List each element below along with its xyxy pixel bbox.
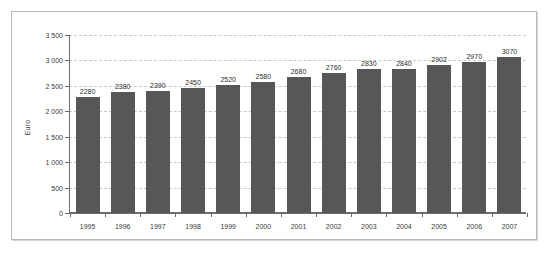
bar-value-label: 2280 (80, 88, 96, 95)
x-axis-tick-label: 2005 (431, 223, 447, 230)
gridline (69, 35, 526, 36)
bar-value-label: 2840 (396, 60, 412, 67)
x-axis-tick-label: 2007 (502, 223, 518, 230)
bar: 2840 (392, 69, 416, 213)
y-axis-tick-label: 2 500 (45, 82, 63, 89)
x-axis-tick (175, 213, 176, 217)
bar-value-label: 2902 (431, 56, 447, 63)
x-axis-tick (492, 213, 493, 217)
x-axis-tick (386, 213, 387, 217)
bar: 2280 (76, 97, 100, 213)
x-axis-tick-label: 1998 (185, 223, 201, 230)
bar: 2680 (287, 77, 311, 213)
bar-value-label: 2450 (185, 79, 201, 86)
y-axis-title-label: Euro (25, 119, 32, 135)
y-axis-tick-label: 1 000 (45, 159, 63, 166)
y-axis-tick (65, 111, 69, 112)
bar-value-label: 2390 (150, 82, 166, 89)
x-axis-tick-label: 1997 (150, 223, 166, 230)
y-axis-tick (65, 35, 69, 36)
x-axis-tick (351, 213, 352, 217)
x-axis-tick-label: 1999 (220, 223, 236, 230)
x-axis-tick (211, 213, 212, 217)
x-axis-tick-label: 2006 (466, 223, 482, 230)
y-axis-tick-label: 500 (51, 184, 63, 191)
x-axis-tick (527, 213, 528, 217)
bar: 2380 (111, 92, 135, 213)
y-axis-tick (65, 162, 69, 163)
y-axis-tick (65, 86, 69, 87)
chart-plot-wrapper: Euro 05001 0001 5002 0002 5003 0003 500 … (12, 12, 536, 239)
x-axis-tick (105, 213, 106, 217)
bar: 3070 (497, 57, 521, 213)
bar-value-label: 2970 (466, 53, 482, 60)
bar-value-label: 2830 (361, 60, 377, 67)
bar: 2580 (251, 82, 275, 213)
y-axis-tick (65, 213, 69, 214)
x-axis-tick (70, 213, 71, 217)
x-axis-tick (316, 213, 317, 217)
bar: 2450 (181, 88, 205, 213)
x-axis-tick (281, 213, 282, 217)
bar: 2520 (216, 85, 240, 213)
x-axis-tick (457, 213, 458, 217)
y-axis-tick (65, 60, 69, 61)
x-axis-tick-label: 2001 (291, 223, 307, 230)
gridline (69, 60, 526, 61)
y-axis-tick (65, 188, 69, 189)
bar-value-label: 3070 (502, 48, 518, 55)
bar-value-label: 2760 (326, 64, 342, 71)
bar-value-label: 2680 (291, 68, 307, 75)
y-axis-line (69, 35, 70, 213)
x-axis-tick-label: 2003 (361, 223, 377, 230)
bar: 2970 (462, 62, 486, 213)
bar-value-label: 2380 (115, 83, 131, 90)
y-axis-tick (65, 137, 69, 138)
x-axis-tick-label: 1995 (80, 223, 96, 230)
bar-value-label: 2520 (220, 76, 236, 83)
plot-area: 05001 0001 5002 0002 5003 0003 500 19951… (69, 35, 526, 213)
chart-frame: Euro 05001 0001 5002 0002 5003 0003 500 … (11, 11, 537, 240)
bar: 2902 (427, 65, 451, 213)
y-axis-tick-label: 0 (59, 210, 63, 217)
bar: 2830 (357, 69, 381, 213)
x-axis-tick-label: 2002 (326, 223, 342, 230)
bar-value-label: 2580 (256, 73, 272, 80)
x-axis-tick-label: 2004 (396, 223, 412, 230)
x-axis-tick (140, 213, 141, 217)
y-axis-tick-label: 3 500 (45, 32, 63, 39)
bar: 2760 (322, 73, 346, 213)
y-axis-title: Euro (21, 97, 35, 157)
y-axis-tick-label: 3 000 (45, 57, 63, 64)
y-axis-tick-label: 2 000 (45, 108, 63, 115)
bar: 2390 (146, 91, 170, 213)
x-axis-tick (422, 213, 423, 217)
y-axis-tick-label: 1 500 (45, 133, 63, 140)
x-axis-tick-label: 1996 (115, 223, 131, 230)
x-axis-tick-label: 2000 (256, 223, 272, 230)
x-axis-tick (246, 213, 247, 217)
